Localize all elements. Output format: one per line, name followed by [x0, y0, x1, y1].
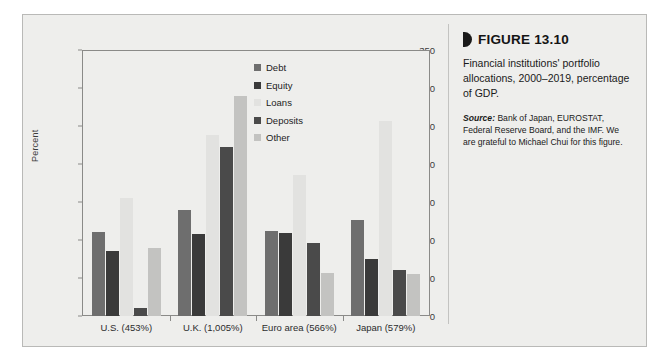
x-axis-tick-mark	[170, 316, 171, 321]
legend-swatch-icon	[254, 82, 261, 89]
figure-description: Financial institutions' portfolio alloca…	[463, 56, 633, 101]
chart-panel: Percent 050100150200250300350 U.S. (453%…	[22, 14, 442, 347]
bar	[106, 251, 119, 316]
bar	[192, 234, 205, 316]
bar	[134, 308, 147, 316]
figure-page: Percent 050100150200250300350 U.S. (453%…	[0, 0, 668, 360]
bar	[178, 210, 191, 316]
legend-item[interactable]: Debt	[254, 62, 303, 73]
bar	[365, 259, 378, 316]
source-label: Source:	[463, 113, 495, 123]
legend-swatch-icon	[254, 64, 261, 71]
y-axis-title: Percent	[30, 130, 40, 162]
legend-item[interactable]: Equity	[254, 80, 303, 91]
bar	[234, 96, 247, 316]
bar	[407, 274, 420, 316]
figure-number-title: FIGURE 13.10	[478, 32, 569, 47]
figure-bullet-icon	[463, 32, 472, 47]
x-tick-label: Japan (579%)	[356, 322, 415, 333]
bar	[220, 147, 233, 316]
x-axis-tick-mark	[343, 316, 344, 321]
bar	[279, 233, 292, 316]
bar-group	[83, 50, 170, 316]
figure-source: Source: Bank of Japan, EUROSTAT, Federal…	[463, 112, 633, 149]
legend-swatch-icon	[254, 134, 261, 141]
chart-legend: DebtEquityLoansDepositsOther	[254, 62, 303, 143]
legend-label: Deposits	[266, 115, 303, 126]
legend-label: Other	[266, 132, 290, 143]
legend-label: Debt	[266, 62, 286, 73]
bar	[293, 175, 306, 316]
caption-divider	[448, 24, 449, 324]
bar	[321, 273, 334, 316]
legend-item[interactable]: Deposits	[254, 115, 303, 126]
x-tick-label: U.S. (453%)	[100, 322, 152, 333]
bar	[120, 198, 133, 316]
legend-item[interactable]: Loans	[254, 97, 303, 108]
bar	[307, 243, 320, 316]
legend-label: Loans	[266, 97, 292, 108]
bar	[351, 220, 364, 316]
bar	[393, 270, 406, 316]
bar	[265, 231, 278, 316]
bar-group	[170, 50, 257, 316]
figure-title-row: FIGURE 13.10	[463, 32, 633, 47]
legend-swatch-icon	[254, 99, 261, 106]
bar	[148, 248, 161, 316]
legend-item[interactable]: Other	[254, 132, 303, 143]
bar-group	[343, 50, 430, 316]
caption-panel: FIGURE 13.10 Financial institutions' por…	[455, 14, 647, 347]
legend-label: Equity	[266, 80, 292, 91]
bar	[92, 232, 105, 316]
legend-swatch-icon	[254, 117, 261, 124]
x-tick-label: Euro area (566%)	[262, 322, 337, 333]
bar	[379, 121, 392, 316]
x-axis-tick-mark	[256, 316, 257, 321]
x-tick-label: U.K. (1,005%)	[183, 322, 243, 333]
bar	[206, 135, 219, 316]
